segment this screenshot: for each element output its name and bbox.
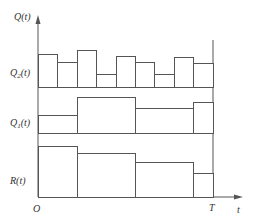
step-bar	[194, 64, 214, 88]
band-label-r: R(t)	[9, 175, 26, 187]
x-axis-label: t	[237, 204, 240, 215]
step-bar	[97, 75, 117, 88]
bands	[38, 51, 214, 198]
t-end-label: T	[209, 202, 216, 213]
x-axis-arrow-icon	[234, 195, 243, 200]
y-axis-arrow-icon	[36, 15, 41, 24]
step-bar	[194, 174, 214, 198]
step-bar	[155, 75, 175, 88]
step-bar	[58, 63, 78, 88]
band-q2	[38, 51, 214, 88]
diagram-svg: Q(t) O T t Q2(t) Q1(t) R(t)	[0, 0, 254, 223]
origin-label: O	[33, 203, 40, 214]
step-bar	[175, 58, 194, 88]
band-r	[38, 147, 214, 198]
band-q1	[38, 98, 214, 134]
step-bar	[78, 154, 136, 198]
step-bar	[194, 103, 214, 134]
step-bar	[136, 109, 194, 134]
y-axis-label: Q(t)	[14, 11, 31, 23]
step-bar	[39, 147, 78, 198]
band-label-q2: Q2(t)	[10, 67, 31, 80]
step-bar	[136, 63, 155, 88]
step-bar	[39, 55, 58, 88]
step-bar	[136, 163, 194, 198]
step-bar	[39, 116, 78, 134]
step-bar	[78, 98, 136, 134]
step-bar	[78, 51, 97, 88]
band-label-q1: Q1(t)	[10, 117, 31, 130]
step-bar	[117, 57, 136, 88]
step-function-diagram: Q(t) O T t Q2(t) Q1(t) R(t)	[0, 0, 254, 223]
